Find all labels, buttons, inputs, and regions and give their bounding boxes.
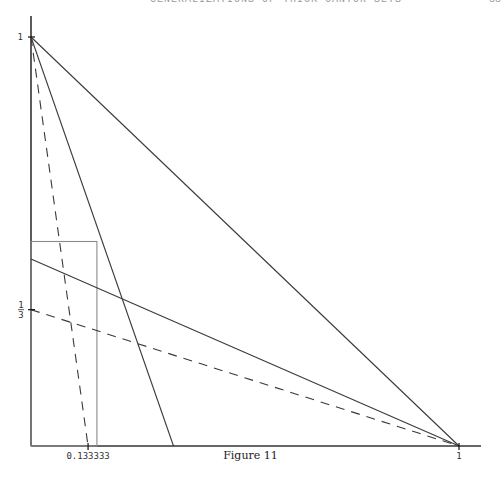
plot-rectangles: [31, 242, 97, 447]
dashed-shallow-line: [31, 310, 459, 446]
shallow-line: [31, 259, 459, 446]
svg-text:3: 3: [18, 310, 23, 320]
figure-caption-text: Figure 11: [223, 449, 278, 462]
figure-plot: 0.1333331113: [0, 0, 501, 483]
y-tick-label-fraction: 13: [18, 300, 24, 320]
box-rectangle: [31, 242, 97, 447]
y-tick-label: 1: [18, 32, 23, 42]
figure-caption: Figure 11: [0, 449, 501, 462]
axis-ticks: 0.1333331113: [18, 32, 462, 461]
svg-text:1: 1: [18, 300, 23, 310]
